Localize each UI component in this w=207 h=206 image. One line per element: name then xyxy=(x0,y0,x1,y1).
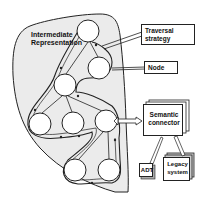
tree-node xyxy=(62,112,84,134)
tree-node xyxy=(88,57,110,79)
adt-box: ADT xyxy=(139,163,153,177)
semantic-line2: connector xyxy=(144,119,184,127)
region-label-line1: Intermediate xyxy=(31,31,82,39)
tree-node xyxy=(64,159,86,181)
tree-node xyxy=(54,74,76,96)
traversal-strategy-box: Traversal strategy xyxy=(141,24,195,45)
node-label: Node xyxy=(148,64,164,72)
legacy-line1: Legacy xyxy=(164,161,191,169)
legacy-system-box: Legacy system xyxy=(163,157,190,181)
tree-node xyxy=(29,113,51,135)
region-label: Intermediate Representation xyxy=(31,31,82,47)
semantic-connector-box: Semantic connector xyxy=(143,104,183,136)
legacy-line2: system xyxy=(164,169,191,177)
adt-label: ADT xyxy=(140,167,154,175)
semantic-line1: Semantic xyxy=(144,111,184,119)
connector-arrow xyxy=(114,117,142,125)
node-box: Node xyxy=(144,61,178,74)
traversal-line1: Traversal xyxy=(145,27,174,35)
region-label-line2: Representation xyxy=(31,39,82,47)
tree-node xyxy=(98,159,120,181)
traversal-line2: strategy xyxy=(145,35,174,43)
